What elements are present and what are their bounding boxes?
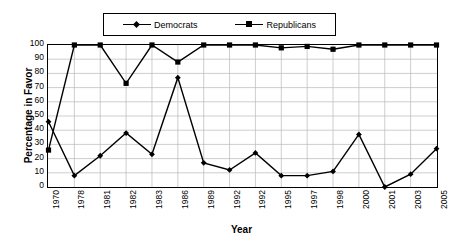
y-tick-label: 40 — [18, 124, 44, 133]
x-axis-title: Year — [40, 224, 443, 235]
x-tick-label: 1981 — [103, 190, 112, 224]
data-point — [253, 42, 258, 47]
y-tick-label: 10 — [18, 167, 44, 176]
x-tick-label: 1970 — [52, 190, 61, 224]
data-point — [356, 42, 361, 47]
data-point — [330, 47, 335, 52]
data-point — [98, 42, 103, 47]
x-tick-label: 1983 — [155, 190, 164, 224]
x-tick-label: 1982 — [129, 190, 138, 224]
plot-area — [47, 44, 438, 188]
data-point — [46, 147, 51, 152]
series-line — [49, 45, 437, 150]
legend-item-democrats: Democrats — [123, 20, 198, 30]
x-tick-label: 2005 — [440, 190, 449, 224]
x-tick-label: 1998 — [336, 190, 345, 224]
data-point — [124, 81, 129, 86]
x-tick-label: 1992 — [258, 190, 267, 224]
data-point — [46, 119, 52, 125]
y-tick-label: 70 — [18, 82, 44, 91]
x-axis-tick-labels: 1970197819811982198319861989199219921995… — [47, 190, 436, 224]
y-tick-label: 0 — [18, 181, 44, 190]
data-point — [201, 160, 207, 166]
x-tick-label: 1997 — [310, 190, 319, 224]
y-tick-label: 50 — [18, 110, 44, 119]
data-point — [305, 44, 310, 49]
data-point — [304, 173, 310, 179]
data-point — [175, 75, 181, 81]
data-point — [434, 42, 439, 47]
legend-label-republicans: Republicans — [266, 20, 316, 30]
data-point — [149, 42, 154, 47]
square-marker-icon — [235, 20, 263, 29]
y-tick-label: 100 — [18, 39, 44, 48]
data-point — [175, 59, 180, 64]
series-line — [49, 78, 437, 187]
y-tick-label: 90 — [18, 53, 44, 62]
x-tick-label: 1989 — [207, 190, 216, 224]
data-point — [408, 42, 413, 47]
y-axis-tick-labels: 1009080706050403020100 — [16, 0, 44, 245]
y-tick-label: 20 — [18, 153, 44, 162]
y-tick-label: 30 — [18, 138, 44, 147]
x-tick-label: 2003 — [414, 190, 423, 224]
x-tick-label: 2001 — [388, 190, 397, 224]
chart-legend: Democrats Republicans — [103, 13, 336, 36]
x-tick-label: 1992 — [233, 190, 242, 224]
y-tick-label: 80 — [18, 67, 44, 76]
x-tick-label: 1986 — [181, 190, 190, 224]
x-tick-label: 2000 — [362, 190, 371, 224]
data-point — [201, 42, 206, 47]
data-point — [72, 42, 77, 47]
data-point — [227, 42, 232, 47]
gridlines — [48, 45, 437, 187]
diamond-marker-icon — [123, 20, 151, 29]
x-tick-label: 1978 — [77, 190, 86, 224]
x-tick-label: 1995 — [284, 190, 293, 224]
data-point — [382, 42, 387, 47]
data-point — [279, 45, 284, 50]
legend-label-democrats: Democrats — [154, 20, 198, 30]
y-tick-label: 60 — [18, 96, 44, 105]
legend-item-republicans: Republicans — [235, 20, 316, 30]
